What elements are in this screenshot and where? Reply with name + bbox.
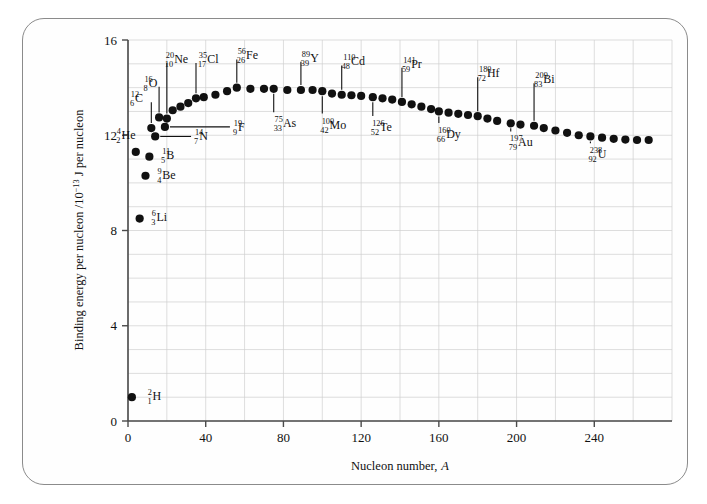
isotope-symbol: 16066Dy [437, 126, 461, 144]
data-point [184, 99, 192, 107]
isotope-symbol: 42He [116, 127, 135, 145]
data-point [233, 84, 241, 92]
data-point [283, 86, 291, 94]
data-point [260, 85, 268, 93]
isotope-symbol: 23892U [588, 146, 606, 164]
data-point [493, 117, 501, 125]
data-point [141, 172, 149, 180]
data-point [474, 112, 482, 120]
isotope-symbol: 2010Ne [165, 51, 188, 69]
data-point [540, 124, 548, 132]
data-point [192, 94, 200, 102]
isotope-label-li: 63Li [151, 209, 167, 227]
isotope-label-fe: 5626Fe [237, 47, 258, 65]
data-point [408, 100, 416, 108]
isotope-symbol: 7533As [274, 115, 297, 133]
x-tick-label: 80 [277, 430, 290, 445]
isotope-symbol: 20983Bi [534, 71, 555, 89]
data-point [610, 135, 618, 143]
isotope-symbol: 94Be [157, 167, 176, 185]
data-point [388, 95, 396, 103]
data-point [151, 132, 159, 140]
data-point [621, 135, 629, 143]
isotope-symbol: 63Li [151, 209, 167, 227]
x-tick-label: 0 [125, 430, 132, 445]
isotope-label-au: 19779Au [509, 134, 533, 152]
isotope-symbol: 147N [194, 128, 208, 146]
data-point [147, 124, 155, 132]
isotope-symbol: 14159Pr [402, 56, 422, 74]
grid [128, 40, 672, 421]
data-point [211, 91, 219, 99]
data-point [347, 91, 355, 99]
data-point [176, 103, 184, 111]
y-tick-label: 4 [111, 318, 118, 333]
y-axis-title: Binding energy per nucleon /10−13 J per … [72, 109, 86, 351]
y-tick-label: 8 [111, 223, 118, 238]
isotope-symbol: 115B [161, 147, 174, 165]
x-axis-title: Nucleon number,A [351, 459, 449, 473]
isotope-label-cl: 3517Cl [198, 51, 219, 69]
data-point [398, 98, 406, 106]
data-point [563, 129, 571, 137]
svg-text:Binding energy per nucleon /10: Binding energy per nucleon /10−13 J per … [72, 109, 86, 351]
data-point [246, 85, 254, 93]
data-point [163, 114, 171, 122]
data-point [586, 132, 594, 140]
isotope-symbol: 8939Y [301, 50, 319, 68]
x-tick-label: 40 [199, 430, 212, 445]
x-tick-label: 120 [351, 430, 371, 445]
isotope-symbol: 21H [147, 388, 161, 406]
isotope-label-y: 8939Y [301, 50, 319, 68]
data-point [161, 123, 169, 131]
isotope-label-dy: 16066Dy [437, 126, 461, 144]
data-point [136, 214, 144, 222]
data-point [128, 393, 136, 401]
isotope-label-bi: 20983Bi [534, 71, 555, 89]
isotope-label-b: 115B [161, 147, 174, 165]
data-point [633, 136, 641, 144]
data-point [308, 86, 316, 94]
y-tick-label: 12 [104, 128, 117, 143]
y-tick-label: 0 [111, 414, 118, 429]
data-point [270, 85, 278, 93]
isotope-label-pr: 14159Pr [402, 56, 422, 74]
data-point [132, 148, 140, 156]
x-tick-label: 240 [585, 430, 605, 445]
data-point [223, 87, 231, 95]
data-point [598, 134, 606, 142]
data-point [155, 113, 163, 121]
isotope-label-c: 126C [130, 90, 143, 108]
data-point [169, 106, 177, 114]
data-point [575, 131, 583, 139]
data-point [357, 92, 365, 100]
x-tick-label: 160 [429, 430, 449, 445]
data-point [551, 126, 559, 134]
data-point [417, 103, 425, 111]
data-point [297, 86, 305, 94]
isotope-symbol: 168O [143, 75, 157, 93]
isotope-symbol: 12652Te [371, 119, 392, 137]
data-point [200, 93, 208, 101]
data-point [464, 111, 472, 119]
isotope-label-f: 199F [233, 119, 245, 137]
binding-energy-chart: 048121604080120160200240 21H42He63Li94Be… [0, 0, 707, 504]
data-point [435, 107, 443, 115]
isotope-label-u: 23892U [588, 146, 606, 164]
isotope-symbol: 19779Au [509, 134, 533, 152]
isotope-label-he: 42He [116, 127, 135, 145]
data-point [444, 109, 452, 117]
isotope-symbol: 18072Hf [478, 65, 500, 83]
data-point [378, 94, 386, 102]
isotope-label-ne: 2010Ne [165, 51, 188, 69]
data-point [483, 114, 491, 122]
data-point [369, 93, 377, 101]
data-point [507, 119, 515, 127]
isotope-label-h: 21H [147, 388, 161, 406]
isotope-label-te: 12652Te [371, 119, 392, 137]
isotope-symbol: 126C [130, 90, 143, 108]
isotope-label-be: 94Be [157, 167, 176, 185]
isotope-symbol: 3517Cl [198, 51, 219, 69]
data-point [338, 91, 346, 99]
data-point [318, 87, 326, 95]
